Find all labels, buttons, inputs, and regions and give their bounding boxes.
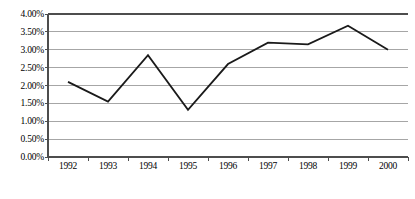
x-axis-tick-label: 1998: [288, 160, 328, 180]
x-axis-tick-label: 1999: [328, 160, 368, 180]
x-axis-tick-label: 1996: [208, 160, 248, 180]
x-axis-tick-label: 2000: [368, 160, 408, 180]
x-axis-tick-label: 1995: [168, 160, 208, 180]
x-axis-tick-label: 1994: [128, 160, 168, 180]
gridlines: [48, 14, 408, 157]
x-axis-tick-label: 1997: [248, 160, 288, 180]
x-axis-tick-label: 1992: [48, 160, 88, 180]
x-axis-tick-labels: 199219931994199519961997199819992000: [48, 160, 408, 180]
x-axis-tick-label: 1993: [88, 160, 128, 180]
line-chart: 0.00%0.50%1.00%1.50%2.00%2.50%3.00%3.50%…: [0, 0, 415, 199]
